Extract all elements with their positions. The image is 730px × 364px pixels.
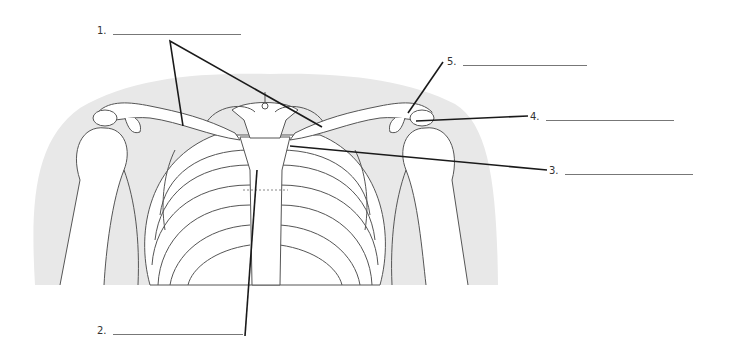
label-4-number: 4. [530, 111, 540, 123]
right-acromion [410, 110, 434, 126]
label-1-number: 1. [97, 25, 107, 37]
label-3: 3. [549, 165, 693, 177]
label-5-blank[interactable] [463, 64, 587, 66]
skeleton-illustration [0, 0, 730, 364]
label-5-number: 5. [447, 56, 457, 68]
label-5: 5. [447, 56, 587, 68]
label-4-blank[interactable] [546, 119, 674, 121]
label-3-number: 3. [549, 165, 559, 177]
label-4: 4. [530, 111, 674, 123]
label-3-blank[interactable] [565, 173, 693, 175]
left-acromion [93, 110, 117, 126]
label-2: 2. [97, 325, 243, 337]
label-2-number: 2. [97, 325, 107, 337]
label-2-blank[interactable] [113, 333, 243, 335]
label-1: 1. [97, 25, 241, 37]
label-1-blank[interactable] [113, 33, 241, 35]
